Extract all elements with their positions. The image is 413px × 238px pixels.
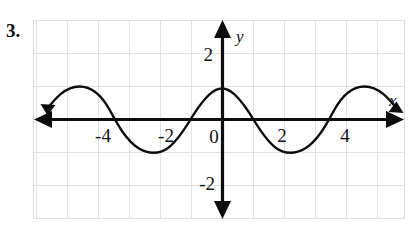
y-tick-label-neg2: -2 [199, 173, 215, 194]
x-tick-label-pos4: 4 [340, 125, 350, 146]
x-tick-label-pos2: 2 [277, 125, 287, 146]
final-render: -4 -2 0 2 4 2 -2 y x [33, 20, 405, 219]
x-tick-label-neg2: -2 [158, 125, 174, 146]
x-axis-name-label: x [388, 91, 397, 110]
x-tick-label-zero: 0 [209, 126, 219, 147]
coordinate-plane-svg: -4 -2 0 2 4 2 -2 y x [33, 20, 405, 219]
problem-number-label: 3. [6, 20, 20, 42]
y-axis-name-label: y [234, 27, 244, 46]
y-tick-label-pos2: 2 [204, 44, 214, 65]
x-tick-label-neg4: -4 [95, 125, 111, 146]
graph-figure: 3. [0, 0, 413, 238]
plot-area: -4 -2 0 2 4 2 -2 y x [33, 20, 405, 219]
